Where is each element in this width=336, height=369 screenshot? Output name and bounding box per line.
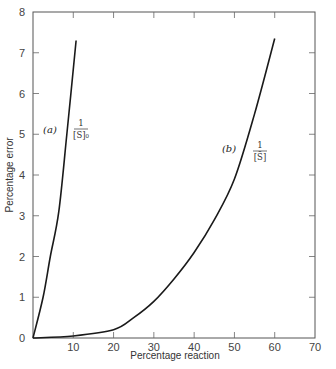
y-tick-label: 5	[19, 128, 25, 140]
fraction-denominator: [S]₀	[73, 130, 89, 140]
y-tick-label: 3	[19, 210, 25, 222]
x-tick-label: 10	[67, 341, 79, 353]
curve-label-b: (b)	[222, 143, 236, 154]
curve-label-a: (a)	[43, 124, 57, 135]
fraction-denominator: [S̄]	[254, 151, 266, 162]
plot-border	[33, 12, 315, 338]
x-tick-label: 70	[309, 341, 321, 353]
curve-a	[33, 41, 76, 338]
x-tick-label: 60	[269, 341, 281, 353]
y-tick-label: 0	[19, 332, 25, 344]
curve-b	[33, 38, 275, 338]
line-chart: 10203040506070012345678 (a)1[S]₀(b)1[S̄]…	[0, 0, 336, 369]
axis-ticks: 10203040506070012345678	[19, 6, 321, 353]
x-axis-label: Percentage reaction	[130, 350, 220, 361]
fraction-numerator: 1	[78, 118, 83, 128]
data-curves	[33, 38, 275, 338]
y-tick-label: 4	[19, 169, 25, 181]
curve-labels: (a)1[S]₀(b)1[S̄]	[43, 118, 267, 162]
y-tick-label: 6	[19, 88, 25, 100]
x-tick-label: 20	[107, 341, 119, 353]
plot-frame	[33, 12, 315, 338]
fraction-numerator: 1	[257, 140, 262, 150]
y-axis-label: Percentage error	[4, 137, 15, 213]
x-tick-label: 50	[228, 341, 240, 353]
y-tick-label: 2	[19, 251, 25, 263]
y-tick-label: 1	[19, 291, 25, 303]
y-tick-label: 8	[19, 6, 25, 18]
y-tick-label: 7	[19, 47, 25, 59]
